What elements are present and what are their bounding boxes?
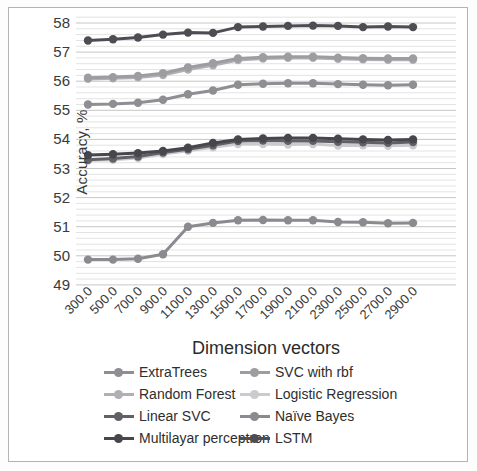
- data-point-naive-bayes: [284, 216, 292, 224]
- legend-dot-icon: [250, 434, 259, 443]
- data-point-multilayar-perceptron: [284, 134, 292, 142]
- legend-item-random-forest: Random Forest: [104, 386, 240, 402]
- data-point-svc-with-rbf: [109, 73, 117, 81]
- data-point-multilayar-perceptron: [159, 147, 167, 155]
- legend-marker-icon: [240, 371, 270, 374]
- legend-label-logistic-regression: Logistic Regression: [275, 386, 397, 402]
- y-axis-title: Accuracy, %: [73, 87, 93, 217]
- data-point-multilayar-perceptron: [234, 135, 242, 143]
- data-point-svc-with-rbf: [134, 72, 142, 80]
- data-point-extratrees: [259, 80, 267, 88]
- data-point-lstm: [409, 23, 417, 31]
- data-point-multilayar-perceptron: [209, 139, 217, 147]
- x-axis-title: Dimension vectors: [76, 338, 456, 359]
- data-point-lstm: [134, 33, 142, 41]
- legend-dot-icon: [250, 368, 259, 377]
- data-point-naive-bayes: [334, 218, 342, 226]
- y-tick-label: 53: [53, 160, 70, 177]
- data-point-naive-bayes: [234, 216, 242, 224]
- data-point-naive-bayes: [159, 250, 167, 258]
- legend-dot-icon: [114, 412, 123, 421]
- y-tick-label: 56: [53, 72, 70, 89]
- data-point-naive-bayes: [184, 223, 192, 231]
- legend-dot-icon: [250, 390, 259, 399]
- data-point-multilayar-perceptron: [359, 135, 367, 143]
- data-point-lstm: [359, 23, 367, 31]
- legend-item-naive-bayes: Naïve Bayes: [240, 408, 397, 424]
- data-point-multilayar-perceptron: [384, 136, 392, 144]
- x-axis-tick-labels: 300.0500.0700.0900.01100.01300.01500.017…: [62, 284, 421, 323]
- x-tick-label: 500.0: [87, 284, 121, 318]
- data-point-naive-bayes: [359, 218, 367, 226]
- legend-item-multilayar-perceptron: Multilayar perceptron: [104, 430, 240, 446]
- data-point-extratrees: [384, 81, 392, 89]
- data-point-lstm: [259, 22, 267, 30]
- y-tick-label: 52: [53, 189, 70, 206]
- chart-legend: ExtraTreesSVC with rbfRandom ForestLogis…: [104, 364, 397, 446]
- legend-marker-icon: [104, 393, 134, 396]
- y-tick-label: 49: [53, 276, 70, 293]
- data-point-lstm: [184, 28, 192, 36]
- legend-label-svc-with-rbf: SVC with rbf: [275, 364, 353, 380]
- y-axis-tick-labels: 49505152535455565758: [53, 14, 70, 293]
- accuracy-line-chart: 49505152535455565758300.0500.0700.0900.0…: [0, 0, 477, 340]
- data-point-lstm: [309, 21, 317, 29]
- data-point-extratrees: [334, 80, 342, 88]
- data-point-lstm: [234, 23, 242, 31]
- data-point-multilayar-perceptron: [409, 135, 417, 143]
- data-point-svc-with-rbf: [359, 54, 367, 62]
- data-point-lstm: [384, 22, 392, 30]
- data-point-svc-with-rbf: [234, 54, 242, 62]
- data-point-extratrees: [284, 79, 292, 87]
- data-point-svc-with-rbf: [84, 74, 92, 82]
- legend-marker-icon: [104, 371, 134, 374]
- data-point-naive-bayes: [109, 255, 117, 263]
- data-point-multilayar-perceptron: [109, 150, 117, 158]
- legend-dot-icon: [114, 390, 123, 399]
- legend-item-extratrees: ExtraTrees: [104, 364, 240, 380]
- data-point-multilayar-perceptron: [309, 134, 317, 142]
- y-tick-label: 55: [53, 101, 70, 118]
- legend-label-naive-bayes: Naïve Bayes: [275, 408, 354, 424]
- data-point-naive-bayes: [134, 255, 142, 263]
- data-point-svc-with-rbf: [284, 53, 292, 61]
- data-point-extratrees: [359, 81, 367, 89]
- data-point-extratrees: [309, 79, 317, 87]
- legend-marker-icon: [104, 437, 134, 440]
- legend-item-lstm: LSTM: [240, 430, 397, 446]
- data-point-lstm: [84, 36, 92, 44]
- data-point-lstm: [284, 22, 292, 30]
- data-point-svc-with-rbf: [259, 53, 267, 61]
- y-tick-label: 50: [53, 247, 70, 264]
- data-point-svc-with-rbf: [159, 69, 167, 77]
- data-point-svc-with-rbf: [384, 54, 392, 62]
- legend-item-linear-svc: Linear SVC: [104, 408, 240, 424]
- data-point-lstm: [159, 30, 167, 38]
- legend-marker-icon: [240, 437, 270, 440]
- y-tick-label: 57: [53, 43, 70, 60]
- data-point-extratrees: [209, 86, 217, 94]
- legend-dot-icon: [250, 412, 259, 421]
- y-tick-label: 58: [53, 14, 70, 31]
- data-point-lstm: [334, 22, 342, 30]
- data-point-naive-bayes: [84, 255, 92, 263]
- data-point-naive-bayes: [259, 216, 267, 224]
- x-tick-label: 700.0: [112, 284, 146, 318]
- data-point-extratrees: [409, 81, 417, 89]
- legend-label-linear-svc: Linear SVC: [139, 408, 211, 424]
- data-point-naive-bayes: [409, 219, 417, 227]
- legend-label-lstm: LSTM: [275, 430, 312, 446]
- data-point-naive-bayes: [209, 219, 217, 227]
- legend-item-logistic-regression: Logistic Regression: [240, 386, 397, 402]
- data-point-svc-with-rbf: [334, 53, 342, 61]
- data-point-extratrees: [159, 96, 167, 104]
- legend-marker-icon: [240, 393, 270, 396]
- data-point-multilayar-perceptron: [184, 144, 192, 152]
- data-point-extratrees: [234, 81, 242, 89]
- data-point-extratrees: [134, 99, 142, 107]
- legend-item-svc-with-rbf: SVC with rbf: [240, 364, 397, 380]
- legend-marker-icon: [240, 415, 270, 418]
- series-lstm: [84, 21, 417, 44]
- data-point-extratrees: [184, 90, 192, 98]
- data-point-svc-with-rbf: [409, 54, 417, 62]
